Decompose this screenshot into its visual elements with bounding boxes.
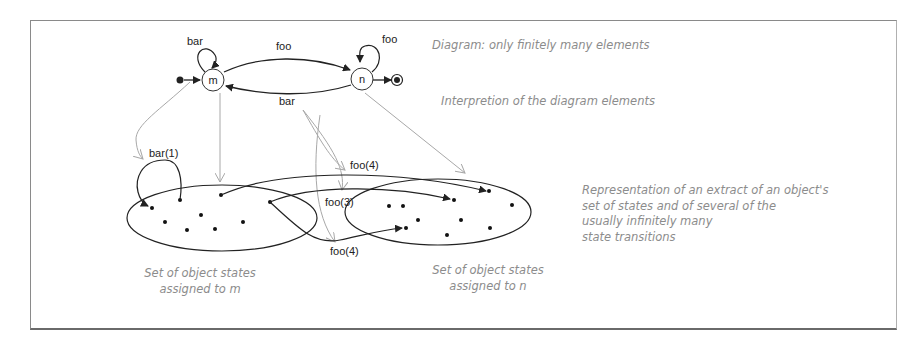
interpretation-arrows (136, 82, 465, 242)
set-n-caption: Set of object states assigned to n (408, 263, 568, 294)
transition-label-m-self: bar (187, 36, 203, 47)
instance-label-foo3: foo(3) (325, 197, 354, 208)
object-states-m (150, 193, 272, 232)
transition-label-n-to-m: bar (279, 96, 295, 107)
state-n-label: n (352, 74, 372, 85)
transition-label-n-self: foo (382, 34, 397, 45)
diagram-note: Diagram: only finitely many elements (432, 38, 649, 54)
set-m-caption-line-1: Set of object states (120, 266, 280, 282)
state-machine (177, 45, 403, 93)
initial-state-icon (177, 77, 184, 84)
set-n-caption-line-2: assigned to n (408, 279, 568, 295)
interpretation-note: Interpretion of the diagram elements (441, 94, 655, 110)
set-n-caption-line-1: Set of object states (408, 263, 568, 279)
state-m-label: m (203, 75, 223, 86)
instance-label-bar1: bar(1) (149, 148, 178, 159)
representation-line-3: usually infinitely many (582, 214, 828, 230)
object-states-n (387, 189, 514, 237)
set-m-caption: Set of object states assigned to m (120, 266, 280, 297)
set-m-caption-line-2: assigned to m (120, 282, 280, 298)
representation-line-1: Representation of an extract of an objec… (582, 183, 828, 199)
representation-line-2: set of states and of several of the (582, 199, 828, 215)
instance-label-foo4-upper: foo(4) (350, 160, 379, 171)
transition-label-m-to-n: foo (276, 41, 291, 52)
representation-line-4: state transitions (582, 230, 828, 246)
instance-label-foo4-lower: foo(4) (330, 246, 359, 257)
representation-note: Representation of an extract of an objec… (582, 183, 828, 245)
diagram-canvas: m n bar foo bar foo bar(1) foo(4) foo(3)… (0, 0, 915, 345)
